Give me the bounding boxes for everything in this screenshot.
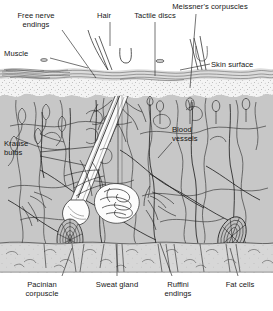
- label-blood-vessels: Blood vessels: [172, 126, 216, 143]
- label-muscle: Muscle: [4, 50, 50, 59]
- muscle-marker: [41, 59, 48, 62]
- label-tactile-discs: Tactile discs: [122, 12, 188, 21]
- label-fat-cells: Fat cells: [212, 281, 268, 290]
- label-krause-bulbs: Krause bulbs: [4, 140, 52, 157]
- label-ruffini-endings: Ruffini endings: [150, 281, 206, 298]
- tactile-disc-marker: [156, 59, 164, 62]
- label-meissners-corpuscles: Meissner's corpuscles: [148, 3, 272, 12]
- hairs-above-surface: [88, 30, 207, 70]
- label-hair: Hair: [88, 12, 120, 21]
- label-free-nerve-endings: Free nerve endings: [0, 12, 72, 29]
- label-sweat-gland: Sweat gland: [82, 281, 152, 290]
- leader-muscle: [50, 58, 88, 68]
- label-skin-surface: Skin surface: [211, 61, 273, 70]
- label-pacinian-corpuscle: Pacinian corpuscle: [8, 281, 76, 298]
- layer-subcutis: [0, 242, 273, 273]
- layer-epidermis: [0, 78, 273, 98]
